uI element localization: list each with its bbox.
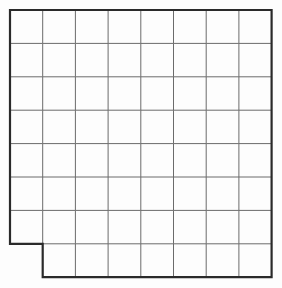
grid-figure	[0, 0, 282, 288]
grid-diagram-canvas	[0, 0, 282, 288]
